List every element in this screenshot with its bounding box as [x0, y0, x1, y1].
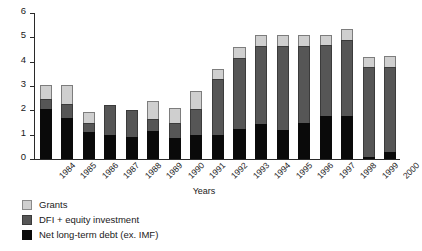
bar-segment: [277, 35, 289, 46]
bar-segment: [169, 138, 181, 159]
x-axis-tick-label: 1997: [337, 161, 357, 181]
bar-segment: [126, 110, 138, 137]
bar-segment: [320, 45, 332, 117]
bar-segment: [190, 109, 202, 135]
bar-stack[interactable]: [40, 85, 52, 159]
bar-stack[interactable]: [126, 110, 138, 159]
bar-slot: [358, 14, 380, 159]
x-axis-tick-label: 1993: [251, 161, 271, 181]
bar-slot: [78, 14, 100, 159]
bar-stack[interactable]: [169, 108, 181, 159]
x-axis-tick-label: 1992: [230, 161, 250, 181]
bar-slot: [250, 14, 272, 159]
bar-segment: [363, 67, 375, 157]
bar-segment: [363, 57, 375, 67]
bar-segment: [190, 91, 202, 109]
y-axis-tick-label: 4: [21, 55, 26, 65]
bar-segment: [233, 47, 245, 58]
x-axis-title: Years: [0, 186, 408, 196]
y-axis-tick: 0: [30, 159, 35, 160]
bar-slot: [57, 14, 79, 159]
x-axis-tick-label: 1987: [122, 161, 142, 181]
bar-segment: [61, 118, 73, 159]
bar-stack[interactable]: [277, 35, 289, 159]
y-axis-tick-label: 3: [21, 79, 26, 89]
bar-slot: [272, 14, 294, 159]
y-axis-tick-label: 2: [21, 103, 26, 113]
bar-slot: [293, 14, 315, 159]
bar-stack[interactable]: [233, 47, 245, 159]
x-axis-tick-label: 1995: [294, 161, 314, 181]
bar-stack[interactable]: [384, 56, 396, 159]
chart-legend: GrantsDFI + equity investmentNet long-te…: [22, 199, 158, 241]
bar-segment: [147, 101, 159, 119]
y-axis-tick-label: 1: [21, 128, 26, 138]
legend-label: Grants: [39, 200, 68, 210]
bar-segment: [169, 123, 181, 139]
legend-item[interactable]: DFI + equity investment: [22, 214, 158, 226]
x-axis-tick-label: 1988: [143, 161, 163, 181]
bar-segment: [40, 99, 52, 109]
bar-slot: [121, 14, 143, 159]
x-axis-tick-label: 1984: [57, 161, 77, 181]
bar-slot: [35, 14, 57, 159]
bar-segment: [104, 105, 116, 134]
bar-stack[interactable]: [61, 85, 73, 159]
bar-segment: [147, 119, 159, 131]
x-axis-tick-label: 1985: [79, 161, 99, 181]
bar-segment: [255, 35, 267, 46]
bar-slot: [207, 14, 229, 159]
x-axis-tick-label: 1996: [316, 161, 336, 181]
bar-slot: [315, 14, 337, 159]
bar-stack[interactable]: [341, 29, 353, 159]
bar-stack[interactable]: [212, 69, 224, 159]
bar-stack[interactable]: [298, 35, 310, 159]
bars-layer: [35, 14, 400, 159]
bar-stack[interactable]: [147, 101, 159, 159]
bar-segment: [384, 152, 396, 159]
bar-slot: [186, 14, 208, 159]
bar-stack[interactable]: [255, 35, 267, 159]
bar-segment: [298, 123, 310, 160]
legend-label: DFI + equity investment: [39, 215, 139, 225]
legend-item[interactable]: Net long-term debt (ex. IMF): [22, 229, 158, 241]
legend-swatch-debt: [22, 230, 32, 240]
bar-segment: [363, 157, 375, 159]
bar-segment: [169, 108, 181, 123]
bar-segment: [233, 129, 245, 159]
bar-segment: [320, 116, 332, 159]
y-axis-tick-label: 5: [21, 30, 26, 40]
bar-stack[interactable]: [104, 105, 116, 159]
bar-segment: [277, 46, 289, 130]
bar-segment: [147, 131, 159, 159]
legend-item[interactable]: Grants: [22, 199, 158, 211]
bar-segment: [277, 130, 289, 159]
bar-segment: [61, 104, 73, 117]
bar-stack[interactable]: [83, 112, 95, 159]
bar-segment: [298, 35, 310, 46]
x-axis-tick-label: 1991: [208, 161, 228, 181]
bar-stack[interactable]: [320, 35, 332, 159]
y-axis-tick-label: 0: [21, 152, 26, 162]
bar-segment: [298, 46, 310, 123]
bar-segment: [212, 79, 224, 135]
bar-segment: [126, 137, 138, 159]
bar-slot: [164, 14, 186, 159]
x-axis-tick-label: 1999: [380, 161, 400, 181]
x-axis-line: [34, 159, 400, 160]
bar-stack[interactable]: [190, 91, 202, 159]
bar-segment: [255, 46, 267, 124]
x-axis-tick-label: 1986: [100, 161, 120, 181]
bar-stack[interactable]: [363, 57, 375, 159]
y-axis-tick-label: 6: [21, 6, 26, 16]
bar-segment: [40, 109, 52, 159]
bar-segment: [384, 56, 396, 67]
bar-segment: [341, 29, 353, 40]
bar-segment: [320, 35, 332, 45]
bar-segment: [255, 124, 267, 159]
bar-segment: [341, 116, 353, 159]
bar-segment: [384, 67, 396, 152]
bar-segment: [83, 112, 95, 123]
bar-segment: [212, 69, 224, 79]
